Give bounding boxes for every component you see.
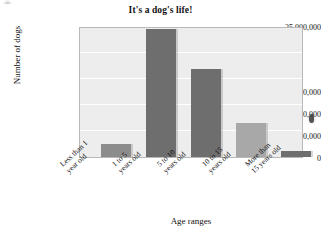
chart-title: It's a dog's life!: [0, 5, 321, 15]
bar-chart: It's a dog's life! Number of dogs 25,000…: [0, 0, 321, 239]
scan-artifact-top: [3, 0, 12, 4]
x-axis-title: Age ranges: [79, 216, 303, 226]
bar-more-than-15-years-old: [281, 151, 311, 157]
y-axis-title: Number of dogs: [12, 0, 22, 110]
scan-artifact-right: [309, 114, 314, 123]
